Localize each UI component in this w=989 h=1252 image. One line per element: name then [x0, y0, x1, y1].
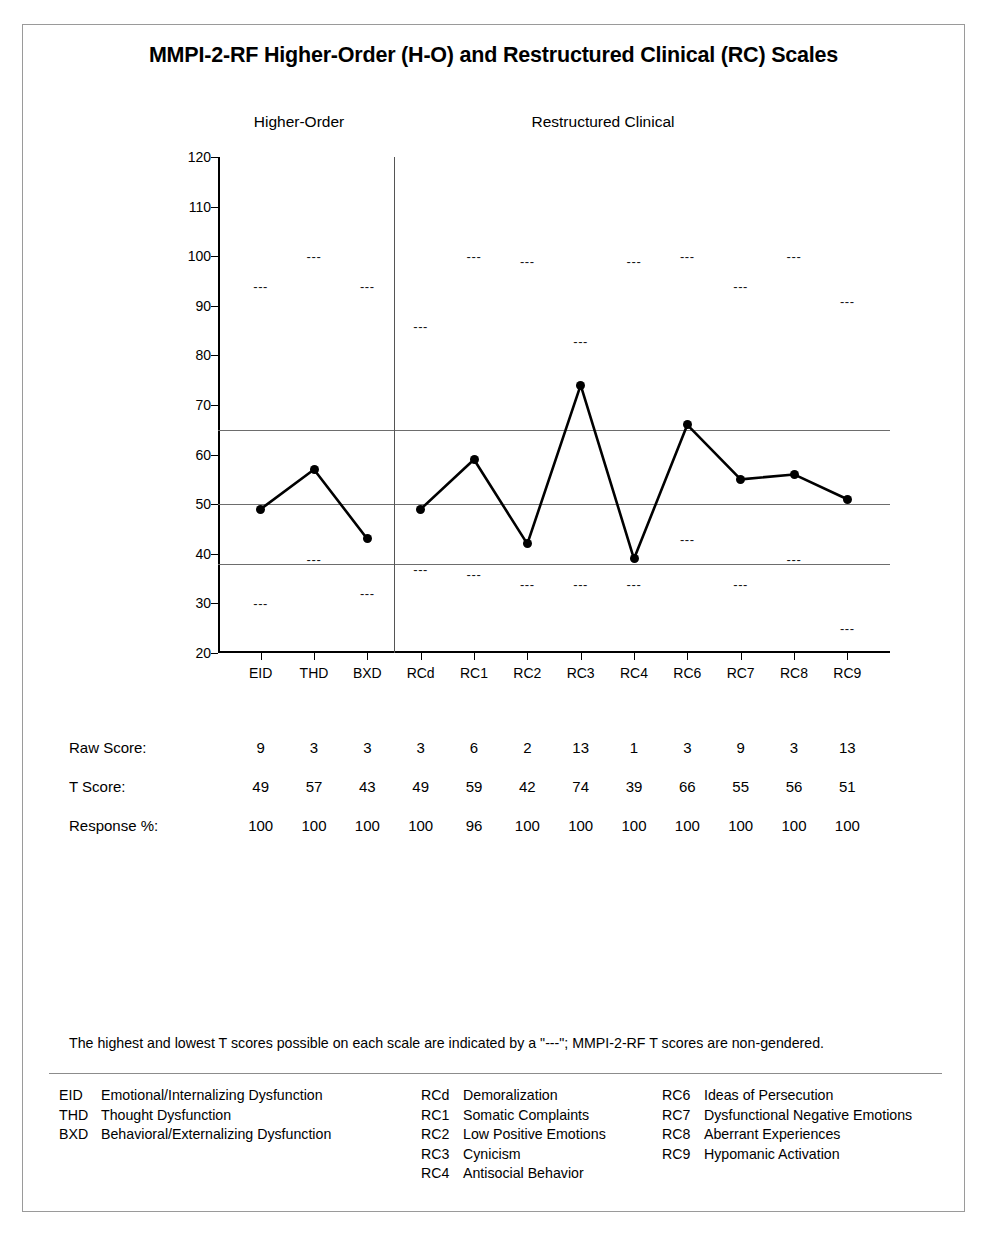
row-response-pct-label: Response %:	[69, 817, 158, 834]
y-tick-mark	[211, 603, 218, 604]
x-tick-mark-RC1	[474, 653, 475, 660]
x-tick-mark-THD	[314, 653, 315, 660]
y-tick-label: 80	[195, 347, 211, 363]
legend-name-RC7: Dysfunctional Negative Emotions	[704, 1107, 912, 1123]
t-score-value-RC7: 55	[732, 778, 749, 795]
legend-name-RC1: Somatic Complaints	[463, 1107, 589, 1123]
y-tick-label: 30	[195, 595, 211, 611]
footnote: The highest and lowest T scores possible…	[69, 1035, 939, 1051]
raw-score-value-RCd: 3	[416, 739, 424, 756]
row-raw-score-label: Raw Score:	[69, 739, 147, 756]
data-point-RC8	[790, 470, 799, 479]
t-score-value-BXD: 43	[359, 778, 376, 795]
row-response-pct: Response %: 1001001001009610010010010010…	[69, 817, 929, 839]
legend-entry-RC3: RC3Cynicism	[421, 1146, 656, 1166]
profile-chart: 2030405060708090100110120 --------------…	[218, 157, 890, 653]
t-score-value-RC8: 56	[786, 778, 803, 795]
raw-score-value-RC7: 9	[736, 739, 744, 756]
profile-line-segment-0	[261, 469, 368, 538]
legend-entry-RC4: RC4Antisocial Behavior	[421, 1165, 656, 1185]
response-pct-value-RC9: 100	[835, 817, 860, 834]
t-score-value-RC2: 42	[519, 778, 536, 795]
x-axis-label-THD: THD	[300, 665, 329, 681]
y-tick-label: 60	[195, 447, 211, 463]
row-t-score: T Score: 495743495942743966555651	[69, 778, 929, 800]
legend-entry-RC7: RC7Dysfunctional Negative Emotions	[662, 1107, 962, 1127]
legend-abbr-RC3: RC3	[421, 1146, 463, 1162]
y-tick-mark	[211, 306, 218, 307]
raw-score-value-RC1: 6	[470, 739, 478, 756]
data-point-THD	[310, 465, 319, 474]
legend-entry-THD: THDThought Dysfunction	[59, 1107, 404, 1127]
data-point-EID	[256, 505, 265, 514]
legend-abbr-BXD: BXD	[59, 1126, 101, 1142]
legend-name-BXD: Behavioral/Externalizing Dysfunction	[101, 1126, 331, 1142]
x-axis-label-RC7: RC7	[727, 665, 755, 681]
t-score-value-RCd: 49	[412, 778, 429, 795]
t-score-value-RC4: 39	[626, 778, 643, 795]
raw-score-value-RC6: 3	[683, 739, 691, 756]
raw-score-value-BXD: 3	[363, 739, 371, 756]
row-raw-score: Raw Score: 93336213139313	[69, 739, 929, 761]
y-tick-label: 100	[188, 248, 211, 264]
response-pct-value-RC3: 100	[568, 817, 593, 834]
legend-abbr-EID: EID	[59, 1087, 101, 1103]
response-pct-value-THD: 100	[301, 817, 326, 834]
raw-score-value-THD: 3	[310, 739, 318, 756]
x-tick-mark-RCd	[421, 653, 422, 660]
legend-entry-EID: EIDEmotional/Internalizing Dysfunction	[59, 1087, 404, 1107]
response-pct-value-RC2: 100	[515, 817, 540, 834]
legend-entry-RC9: RC9Hypomanic Activation	[662, 1146, 962, 1166]
legend-abbr-RC7: RC7	[662, 1107, 704, 1123]
raw-score-value-RC3: 13	[572, 739, 589, 756]
y-tick-mark	[211, 355, 218, 356]
response-pct-value-BXD: 100	[355, 817, 380, 834]
x-axis-label-RC1: RC1	[460, 665, 488, 681]
y-tick-mark	[211, 455, 218, 456]
y-tick-mark	[211, 405, 218, 406]
legend-abbr-RC9: RC9	[662, 1146, 704, 1162]
legend-entry-BXD: BXDBehavioral/Externalizing Dysfunction	[59, 1126, 404, 1146]
response-pct-value-RC8: 100	[781, 817, 806, 834]
x-tick-mark-RC6	[687, 653, 688, 660]
response-pct-value-RC6: 100	[675, 817, 700, 834]
raw-score-value-RC8: 3	[790, 739, 798, 756]
legend-abbr-THD: THD	[59, 1107, 101, 1123]
t-score-value-RC6: 66	[679, 778, 696, 795]
t-score-value-RC1: 59	[466, 778, 483, 795]
legend-abbr-RC6: RC6	[662, 1087, 704, 1103]
t-score-value-EID: 49	[252, 778, 269, 795]
y-tick-label: 20	[195, 645, 211, 661]
data-point-RC7	[736, 475, 745, 484]
row-t-score-label: T Score:	[69, 778, 125, 795]
y-tick-label: 120	[188, 149, 211, 165]
x-axis-label-BXD: BXD	[353, 665, 382, 681]
x-axis-label-RC9: RC9	[833, 665, 861, 681]
y-tick-mark	[211, 554, 218, 555]
x-tick-mark-RC2	[527, 653, 528, 660]
profile-line-segment-1	[421, 385, 848, 559]
x-axis-label-RC6: RC6	[673, 665, 701, 681]
page-title: MMPI-2-RF Higher-Order (H-O) and Restruc…	[23, 43, 964, 68]
legend-abbr-RC1: RC1	[421, 1107, 463, 1123]
x-tick-mark-EID	[261, 653, 262, 660]
y-tick-mark	[211, 157, 218, 158]
legend-name-THD: Thought Dysfunction	[101, 1107, 231, 1123]
y-tick-mark	[211, 504, 218, 505]
legend-entry-RCd: RCdDemoralization	[421, 1087, 656, 1107]
legend-name-RC9: Hypomanic Activation	[704, 1146, 840, 1162]
data-point-RC3	[576, 381, 585, 390]
data-point-RC9	[843, 495, 852, 504]
t-score-value-RC3: 74	[572, 778, 589, 795]
x-tick-mark-RC3	[581, 653, 582, 660]
legend-name-RC3: Cynicism	[463, 1146, 521, 1162]
x-tick-mark-BXD	[367, 653, 368, 660]
response-pct-value-EID: 100	[248, 817, 273, 834]
y-tick-label: 50	[195, 496, 211, 512]
raw-score-value-RC9: 13	[839, 739, 856, 756]
y-tick-mark	[211, 207, 218, 208]
x-tick-mark-RC8	[794, 653, 795, 660]
response-pct-value-RC1: 96	[466, 817, 483, 834]
legend-column-rc-second: RC6Ideas of PersecutionRC7Dysfunctional …	[662, 1087, 962, 1165]
x-axis-label-RC4: RC4	[620, 665, 648, 681]
